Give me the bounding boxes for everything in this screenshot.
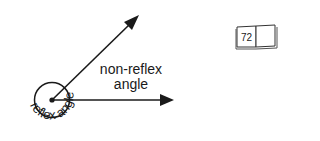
non-reflex-label-line2: angle — [90, 77, 172, 92]
vertex-point — [49, 97, 54, 102]
horizontal-arrowhead-icon — [160, 94, 174, 106]
page-number: 72 — [241, 32, 253, 43]
non-reflex-label: non-reflex angle — [90, 62, 172, 92]
open-book-icon: 72 — [235, 23, 279, 50]
non-reflex-label-line1: non-reflex — [90, 62, 172, 77]
